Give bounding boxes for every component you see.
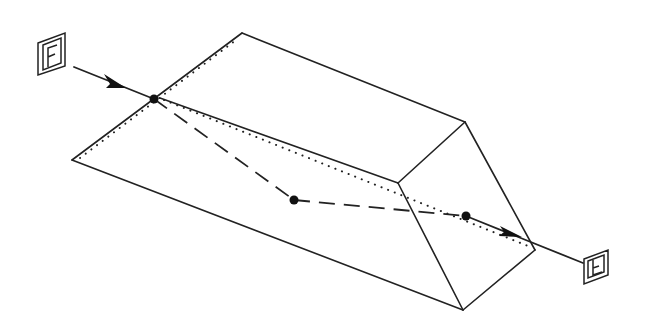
- diagram-svg: [0, 0, 648, 324]
- edge-top-back: [242, 33, 465, 122]
- prism-edges: [72, 33, 535, 310]
- outgoing-ray: [466, 216, 583, 263]
- edge-end-bottom: [463, 250, 535, 310]
- edge-end-top: [398, 122, 465, 183]
- reflection-point: [290, 196, 299, 205]
- internal-ray-1: [154, 99, 294, 200]
- internal-ray-2: [294, 200, 466, 216]
- edge-end-right: [465, 122, 535, 250]
- hidden-edges: [80, 40, 528, 246]
- edge-end-left: [398, 183, 463, 310]
- edge-front-ridge: [160, 98, 398, 183]
- entry-label-box: [38, 33, 65, 75]
- edge-bottom-long: [72, 160, 463, 310]
- exit-label-box: [584, 250, 608, 284]
- prism-diagram: F E: [0, 0, 648, 324]
- entry-point: [150, 95, 159, 104]
- hidden-edge-bottom-ridge: [164, 100, 528, 246]
- exit-point: [462, 212, 471, 221]
